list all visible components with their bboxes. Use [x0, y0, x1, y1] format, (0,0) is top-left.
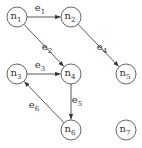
edge-e1: e1	[27, 2, 61, 17]
node-n3: n3	[7, 64, 27, 84]
edge-e2: e2	[24, 24, 64, 66]
node-n6: n6	[61, 120, 81, 140]
edge-e4: e4	[78, 24, 119, 66]
edge-e6: e6	[24, 82, 64, 123]
node-n7: n7	[116, 120, 136, 140]
node-n4: n4	[61, 64, 81, 84]
edge-label: e5	[72, 94, 82, 108]
edge-label: e2	[42, 41, 52, 55]
edge-label: e1	[35, 2, 45, 16]
edge-e3: e3	[27, 59, 61, 74]
node-n2: n2	[61, 7, 81, 27]
edge-e5: e5	[71, 84, 82, 120]
graph-diagram: e1e2e3e4e5e6 n1n2n3n4n5n6n7	[0, 0, 142, 148]
node-n5: n5	[116, 64, 136, 84]
edge-label: e6	[29, 99, 40, 113]
edge-label: e3	[35, 59, 45, 73]
node-n1: n1	[7, 7, 27, 27]
edge-label: e4	[97, 41, 108, 55]
